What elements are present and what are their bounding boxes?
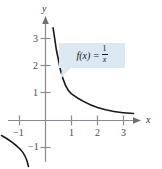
y-axis-label: y [42,4,46,14]
plot-canvas [0,0,162,169]
x-axis-label: x [146,115,150,125]
y-tick-label--1: −1 [28,142,39,152]
curve-branch-negative [2,136,29,167]
y-axis-arrowhead [42,16,49,24]
reciprocal-function-figure: f(x) = 1 x x y −1 1 2 3 1 2 3 −1 [0,0,162,169]
fraction-numerator: 1 [102,45,108,53]
fraction-one-over-x: 1 x [102,45,108,64]
y-tick-label-1: 1 [33,88,38,98]
y-tick-label-2: 2 [33,61,38,71]
y-tick-label-3: 3 [33,34,38,44]
callout-tail [60,68,71,80]
x-tick-label-3: 3 [121,128,126,138]
fraction-denominator: x [102,56,108,64]
x-axis-arrowhead [133,117,141,124]
equation-text: f(x) = 1 x [59,43,125,68]
equation-lhs: f(x) = [76,50,99,61]
x-tick-label--1: −1 [13,128,24,138]
equation-callout: f(x) = 1 x [59,43,125,68]
x-tick-label-2: 2 [95,128,100,138]
x-tick-label-1: 1 [69,128,74,138]
